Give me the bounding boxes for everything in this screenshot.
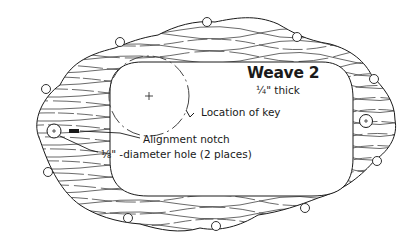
right-hole [360, 115, 373, 128]
hole-label: ⅛" -diameter hole (2 places) [101, 148, 252, 160]
alignment-notch-label: Alignment notch [143, 133, 230, 145]
inner-rounded-rectangle-opening [110, 62, 353, 196]
key-location-label: Location of key [201, 106, 281, 118]
weave-pattern-drawing [0, 0, 419, 251]
thickness-label: ¼" thick [256, 84, 300, 96]
diagram-title: Weave 2 [247, 64, 319, 82]
left-hole [47, 124, 61, 138]
alignment-notch [69, 129, 79, 133]
